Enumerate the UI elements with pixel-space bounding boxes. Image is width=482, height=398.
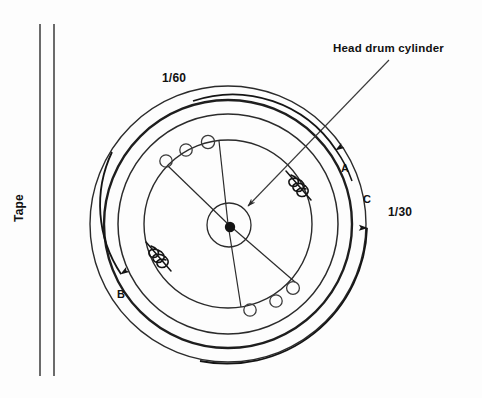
screw-hole [180,144,192,156]
label-arrow-c: C [363,193,371,205]
screw-hole [270,295,282,307]
tape-path-lines [40,24,54,376]
drum-shaft-dot [225,222,235,232]
label-tape: Tape [12,194,26,222]
label-outer-period: 1/30 [388,205,412,219]
label-arrow-b: B [117,288,125,300]
video-head-coil-upper [286,171,311,200]
video-head-coil-lower [146,242,171,271]
label-arrow-a: A [341,162,349,174]
screw-hole [160,155,172,167]
screw-holes-bottom [244,282,300,317]
callout-leader-line [248,60,389,206]
callout-label-head-drum-cylinder: Head drum cylinder [333,42,444,54]
label-inner-period: 1/60 [162,71,186,85]
rotation-arc-c [200,228,367,364]
diagram-canvas: Head drum cylinder 1/60 1/30 A B C Tape [0,0,482,398]
screw-hole [287,282,300,295]
head-drum-diagram [0,0,482,398]
